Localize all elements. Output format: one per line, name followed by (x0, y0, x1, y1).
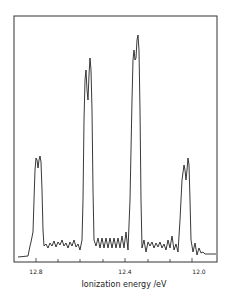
x-ticks (36, 258, 192, 262)
plot-frame (14, 16, 217, 262)
x-tick-label: 12.4 (118, 268, 132, 275)
x-tick-label: 12.0 (192, 268, 206, 275)
x-axis-label: Ionization energy /eV (81, 280, 167, 289)
x-tick-label: 12.8 (29, 268, 43, 275)
spectrum-trace (18, 35, 216, 257)
spectrum-chart: 12.8 12.4 12.0 Ionization energy /eV (0, 0, 227, 301)
